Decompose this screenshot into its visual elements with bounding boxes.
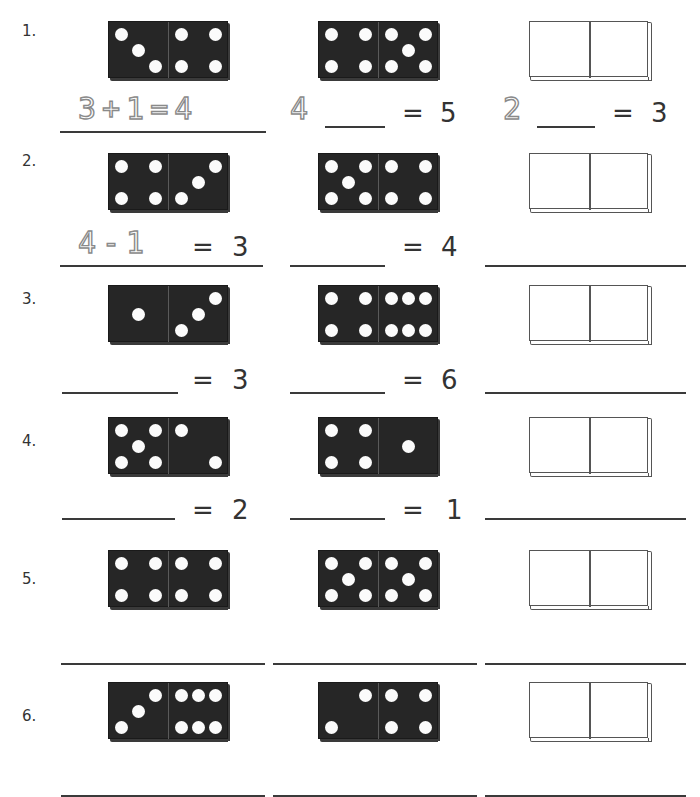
result-value: 4 <box>441 234 458 260</box>
empty-domino-to-draw[interactable] <box>529 285 649 342</box>
pip-dot <box>385 689 398 702</box>
domino-edge <box>320 739 438 742</box>
empty-domino-to-draw[interactable] <box>529 417 649 474</box>
answer-blank-line[interactable] <box>290 518 385 520</box>
pip-dot <box>209 160 222 173</box>
answer-blank-line[interactable] <box>325 126 385 128</box>
pip-dot <box>192 308 205 321</box>
domino-left-half[interactable] <box>530 551 589 607</box>
pip-dot <box>149 192 162 205</box>
pip-dot <box>325 292 338 305</box>
pip-dot <box>149 424 162 437</box>
answer-blank-line[interactable] <box>485 265 686 267</box>
pip-dot <box>209 721 222 734</box>
domino-right-half[interactable] <box>590 286 649 342</box>
domino-left-half[interactable] <box>530 154 589 210</box>
pip-dot <box>419 557 432 570</box>
answer-blank-line[interactable] <box>485 663 686 665</box>
pip-dot <box>419 160 432 173</box>
pip-dot <box>325 557 338 570</box>
problem-number: 5. <box>22 570 36 588</box>
domino-tile <box>108 550 228 607</box>
domino-left-half <box>109 22 168 78</box>
domino-right-half <box>169 22 228 78</box>
empty-domino-to-draw[interactable] <box>529 153 649 210</box>
domino-right-half[interactable] <box>590 154 649 210</box>
pip-dot <box>209 557 222 570</box>
traced-digit-row1-col3: 2 <box>503 94 527 124</box>
pip-dot <box>359 456 372 469</box>
pip-dot <box>115 424 128 437</box>
pip-dot <box>132 44 145 57</box>
answer-blank-line[interactable] <box>273 663 477 665</box>
answer-blank-line[interactable] <box>485 795 686 797</box>
domino-edge <box>110 474 228 477</box>
equals-sign: = <box>612 100 634 126</box>
domino-face <box>318 285 438 342</box>
equals-sign: = <box>192 497 214 523</box>
pip-dot <box>115 589 128 602</box>
pip-dot <box>325 324 338 337</box>
answer-blank-line[interactable] <box>60 265 263 267</box>
domino-left-half[interactable] <box>530 22 589 78</box>
answer-blank-line[interactable] <box>60 131 266 133</box>
domino-face <box>529 153 648 209</box>
domino-right-half[interactable] <box>590 683 649 739</box>
answer-blank-line[interactable] <box>62 518 175 520</box>
domino-right-half <box>169 683 228 739</box>
pip-dot <box>175 28 188 41</box>
problem-number: 4. <box>22 432 36 450</box>
answer-blank-line[interactable] <box>485 518 686 520</box>
answer-blank-line[interactable] <box>485 392 686 394</box>
pip-dot <box>359 192 372 205</box>
pip-dot <box>132 705 145 718</box>
pip-dot <box>359 557 372 570</box>
pip-dot <box>402 44 415 57</box>
answer-blank-line[interactable] <box>61 795 265 797</box>
pip-dot <box>175 557 188 570</box>
domino-tile <box>318 550 438 607</box>
domino-left-half[interactable] <box>530 683 589 739</box>
result-value: 3 <box>232 234 249 260</box>
empty-domino-to-draw[interactable] <box>529 682 649 739</box>
empty-domino-to-draw[interactable] <box>529 550 649 607</box>
domino-right-half <box>169 551 228 607</box>
pip-dot <box>385 60 398 73</box>
pip-dot <box>385 292 398 305</box>
problem-number: 3. <box>22 290 36 308</box>
domino-left-half <box>109 418 168 474</box>
domino-tile <box>318 682 438 739</box>
domino-left-half[interactable] <box>530 418 589 474</box>
domino-left-half <box>319 22 378 78</box>
answer-blank-line[interactable] <box>62 392 178 394</box>
problem-number: 6. <box>22 707 36 725</box>
domino-right-half <box>379 683 438 739</box>
domino-left-half <box>109 551 168 607</box>
pip-dot <box>359 28 372 41</box>
domino-edge <box>320 210 438 213</box>
pip-dot <box>359 60 372 73</box>
pip-dot <box>342 176 355 189</box>
pip-dot <box>149 160 162 173</box>
domino-face <box>318 682 438 739</box>
domino-face <box>318 550 438 607</box>
domino-face <box>529 417 648 473</box>
pip-dot <box>325 60 338 73</box>
pip-dot <box>175 689 188 702</box>
domino-edge <box>320 78 438 81</box>
answer-blank-line[interactable] <box>290 392 385 394</box>
answer-blank-line[interactable] <box>290 265 385 267</box>
answer-blank-line[interactable] <box>273 795 477 797</box>
domino-face <box>318 417 438 474</box>
pip-dot <box>419 589 432 602</box>
pip-dot <box>175 324 188 337</box>
answer-blank-line[interactable] <box>61 663 265 665</box>
pip-dot <box>149 689 162 702</box>
domino-right-half[interactable] <box>590 418 649 474</box>
domino-left-half[interactable] <box>530 286 589 342</box>
domino-right-half[interactable] <box>590 22 649 78</box>
pip-dot <box>325 589 338 602</box>
answer-blank-line[interactable] <box>537 126 595 128</box>
domino-right-half[interactable] <box>590 551 649 607</box>
empty-domino-to-draw[interactable] <box>529 21 649 78</box>
